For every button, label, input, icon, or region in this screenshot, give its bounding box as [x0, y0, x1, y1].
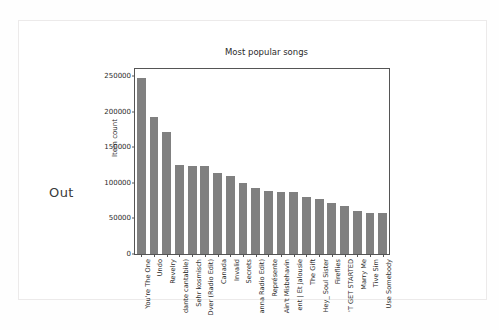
x-tick-label: The Gift: [309, 259, 317, 285]
y-tick-label: 200000: [104, 108, 131, 116]
x-tick-mark: [383, 254, 384, 257]
x-tick-label: Dver (Radio Edit): [207, 259, 215, 315]
x-tick-label: Sehr kosmisch: [195, 259, 203, 307]
x-tick-mark: [294, 254, 295, 257]
margin-text-out: Out: [49, 185, 74, 200]
y-axis-label: Item count: [111, 119, 119, 157]
x-tick-label: Hey_ Soul Sister: [322, 259, 330, 312]
x-tick-mark: [268, 254, 269, 257]
document-card: Out Most popular songs Item count 050000…: [18, 20, 487, 300]
x-tick-label: Représente: [271, 259, 279, 296]
x-tick-label: You're The One: [144, 259, 152, 309]
x-tick-mark: [243, 254, 244, 257]
x-tick-label: Ain't Misbehavin: [283, 259, 291, 313]
y-tick-label: 50000: [109, 214, 131, 222]
plot-area: Item count 05000010000015000020000025000…: [134, 68, 390, 255]
x-tick-mark: [230, 254, 231, 257]
x-tick-label: Secrets: [245, 259, 253, 284]
x-tick-mark: [141, 254, 142, 257]
x-tick-mark: [319, 254, 320, 257]
x-tick-mark: [192, 254, 193, 257]
y-tick-label: 250000: [104, 72, 131, 80]
x-tick-mark: [357, 254, 358, 257]
x-tick-label: Canada: [220, 259, 228, 284]
chart-title: Most popular songs: [134, 47, 399, 57]
x-tick-label: dante cantabile): [182, 259, 190, 313]
x-tick-mark: [306, 254, 307, 257]
x-tick-label: ent | Et Jalousie: [296, 259, 304, 310]
x-tick-mark: [345, 254, 346, 257]
x-tick-label: Use Somebody: [385, 259, 393, 308]
x-tick-mark: [154, 254, 155, 257]
x-tick-label: Marry Me: [360, 259, 368, 290]
x-tick-mark: [281, 254, 282, 257]
x-tick-mark: [370, 254, 371, 257]
page-root: Out Most popular songs Item count 050000…: [0, 0, 499, 330]
bar-chart-figure: Most popular songs Item count 0500001000…: [89, 45, 409, 321]
y-tick-label: 0: [127, 250, 131, 258]
x-tick-label: Revelry: [169, 259, 177, 284]
x-tick-label: anna Radio Edit): [258, 259, 266, 314]
x-tick-mark: [179, 254, 180, 257]
x-tick-mark: [167, 254, 168, 257]
x-tick-mark: [256, 254, 257, 257]
x-axis-ticks: You're The OneUndoRevelrydante cantabile…: [135, 69, 389, 254]
x-tick-mark: [332, 254, 333, 257]
x-tick-label: Undo: [156, 259, 164, 276]
x-tick-label: Fireflies: [334, 259, 342, 284]
y-tick-label: 150000: [104, 143, 131, 151]
x-tick-label: Tive Sim: [372, 259, 380, 287]
x-tick-mark: [218, 254, 219, 257]
x-tick-label: Invalid: [233, 259, 241, 281]
x-tick-label: 'T GET STARTED: [347, 259, 355, 312]
x-tick-mark: [205, 254, 206, 257]
y-tick-label: 100000: [104, 179, 131, 187]
